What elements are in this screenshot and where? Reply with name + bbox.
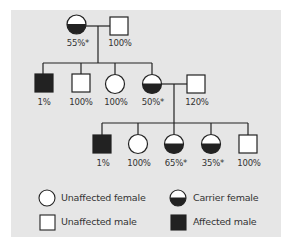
legend-affected-male-icon — [171, 215, 186, 230]
label-g2-son2: 100% — [69, 97, 93, 107]
carrier-female-symbol-g3-daughter3 — [202, 135, 221, 154]
legend-affected-male-label: Affected male — [193, 216, 257, 227]
legend-unaffected-female-icon — [39, 190, 55, 206]
carrier-female-symbol-g2-daughter2 — [143, 75, 162, 94]
legend-unaffected-male-label: Unaffected male — [61, 216, 137, 227]
unaffected-male-symbol-g2-spouse — [187, 75, 205, 93]
unaffected-male-symbol-g2-son2 — [72, 74, 90, 92]
label-g2-daughter2: 50%* — [142, 97, 164, 107]
legend-unaffected-female-label: Unaffected female — [61, 192, 146, 203]
label-g1-mother: 55%* — [67, 38, 89, 48]
carrier-female-symbol-g1-mother — [67, 15, 86, 34]
unaffected-female-symbol-g3-daughter1 — [129, 135, 148, 154]
unaffected-male-symbol-g3-son2 — [239, 135, 257, 153]
affected-male-symbol-g3-son1 — [93, 135, 111, 153]
unaffected-male-symbol-g1-father — [110, 17, 128, 35]
label-g3-son2: 100% — [237, 158, 261, 168]
label-g3-son1: 1% — [96, 158, 109, 168]
label-g1-father: 100% — [108, 38, 132, 48]
label-g3-daughter2: 65%* — [165, 158, 187, 168]
label-g2-daughter1: 100% — [104, 97, 128, 107]
affected-male-symbol-g2-son1 — [35, 74, 53, 92]
legend-carrier-female-label: Carrier female — [193, 192, 258, 203]
unaffected-female-symbol-g2-daughter1 — [106, 75, 125, 94]
label-g3-daughter1: 100% — [127, 158, 151, 168]
pedigree-chart — [0, 0, 288, 248]
label-g2-spouse: 120% — [185, 97, 209, 107]
label-g2-son1: 1% — [37, 97, 50, 107]
carrier-female-symbol-g3-daughter2 — [165, 135, 184, 154]
legend-carrier-female-icon — [170, 190, 186, 206]
legend-unaffected-male-icon — [40, 215, 55, 230]
label-g3-daughter3: 35%* — [202, 158, 224, 168]
